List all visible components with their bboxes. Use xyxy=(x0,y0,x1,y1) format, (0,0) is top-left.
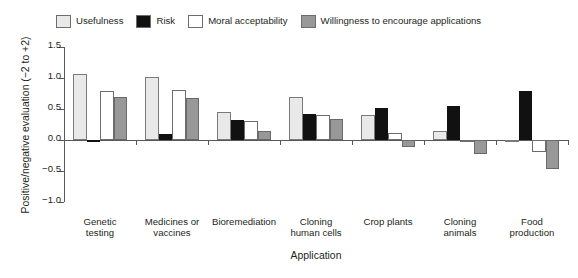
x-tick-mark xyxy=(64,140,65,145)
y-tick-label: 0.0 xyxy=(48,133,61,143)
legend-swatch xyxy=(56,15,71,28)
bar xyxy=(100,91,114,140)
bar xyxy=(87,140,101,142)
bar xyxy=(447,106,461,140)
bar xyxy=(289,97,303,140)
y-axis-line xyxy=(64,47,65,202)
bar xyxy=(402,140,416,147)
y-tick-label: 1.5 xyxy=(48,40,61,50)
legend-entry: Willingness to encourage applications xyxy=(301,15,482,28)
x-tick-mark xyxy=(280,140,281,145)
x-tick-mark xyxy=(136,140,137,145)
bar xyxy=(361,115,375,140)
bar xyxy=(460,140,474,142)
bar xyxy=(316,115,330,140)
bar xyxy=(217,112,231,140)
legend-label: Moral acceptability xyxy=(208,16,287,26)
bar xyxy=(505,140,519,142)
bar xyxy=(258,131,272,140)
y-tick-label: 1.0 xyxy=(48,71,61,81)
bar xyxy=(303,114,317,140)
chart-legend: UsefulnessRiskMoral acceptabilityWilling… xyxy=(56,11,481,31)
x-axis-title: Application xyxy=(64,251,568,261)
bar xyxy=(114,97,128,140)
bar xyxy=(172,90,186,140)
bar xyxy=(186,98,200,140)
x-axis-category-label: Foodproduction xyxy=(490,216,574,238)
y-tick-label: 0.5 xyxy=(48,102,61,112)
bar xyxy=(433,131,447,140)
x-tick-mark xyxy=(208,140,209,145)
y-axis-title: Positive/negative evaluation (−2 to +2) xyxy=(21,36,31,213)
bar xyxy=(73,74,87,140)
plot-area: −1.0−0.50.00.51.01.5 GenetictestingMedic… xyxy=(64,47,568,202)
legend-entry: Moral acceptability xyxy=(188,15,287,28)
bar xyxy=(532,140,546,152)
x-tick-mark xyxy=(352,140,353,145)
bar xyxy=(244,121,258,140)
bar xyxy=(159,134,173,140)
x-tick-mark xyxy=(568,140,569,145)
legend-swatch xyxy=(301,15,316,28)
legend-entry: Usefulness xyxy=(56,15,123,28)
bar xyxy=(519,91,533,140)
bar xyxy=(375,108,389,140)
legend-swatch xyxy=(188,15,203,28)
bar xyxy=(388,133,402,140)
bar xyxy=(145,77,159,140)
bar xyxy=(474,140,488,154)
x-tick-mark xyxy=(424,140,425,145)
legend-entry: Risk xyxy=(136,15,175,28)
x-tick-mark xyxy=(496,140,497,145)
y-tick-label: −0.5 xyxy=(42,164,61,174)
legend-label: Willingness to encourage applications xyxy=(321,16,482,26)
bar xyxy=(330,119,344,140)
bar xyxy=(546,140,560,169)
legend-label: Usefulness xyxy=(76,16,123,26)
y-tick-label: −1.0 xyxy=(42,195,61,205)
bar xyxy=(231,120,245,140)
legend-swatch xyxy=(136,15,151,28)
legend-label: Risk xyxy=(156,16,175,26)
bar-chart-figure: UsefulnessRiskMoral acceptabilityWilling… xyxy=(0,0,578,278)
